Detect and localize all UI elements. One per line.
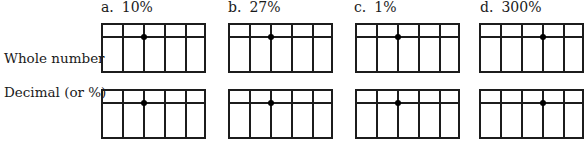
grid-line [397, 91, 399, 137]
column-label-b: b.27% [228, 0, 281, 15]
grid-line [122, 91, 124, 137]
grid-line [500, 91, 502, 137]
decimal-point-dot [395, 34, 401, 40]
grid-line [563, 91, 565, 137]
column-value: 300% [501, 0, 541, 15]
place-value-grid-decimal-d [479, 89, 584, 139]
grid-line [291, 25, 293, 71]
decimal-point-dot [268, 34, 274, 40]
column-letter: a. [101, 0, 114, 15]
grid-line [122, 25, 124, 71]
decimal-point-dot [268, 100, 274, 106]
decimal-point-dot [540, 34, 546, 40]
place-value-grid-whole-a [101, 23, 206, 73]
column-value: 27% [249, 0, 280, 15]
grid-line [291, 91, 293, 137]
decimal-point-dot [540, 100, 546, 106]
grid-line [563, 25, 565, 71]
grid-line [521, 25, 523, 71]
decimal-point-dot [141, 100, 147, 106]
grid-divider [481, 102, 582, 104]
column-label-c: c.1% [354, 0, 397, 15]
place-value-grid-decimal-c [355, 89, 460, 139]
column-letter: c. [354, 0, 366, 15]
grid-line [270, 25, 272, 71]
grid-divider [481, 36, 582, 38]
place-value-grid-whole-d [479, 23, 584, 73]
grid-line [249, 91, 251, 137]
grid-line [270, 91, 272, 137]
place-value-grid-decimal-a [101, 89, 206, 139]
grid-divider [103, 102, 204, 104]
grid-line [143, 91, 145, 137]
place-value-grid-whole-c [355, 23, 460, 73]
grid-line [185, 91, 187, 137]
grid-divider [230, 36, 331, 38]
decimal-point-dot [395, 100, 401, 106]
grid-divider [357, 36, 458, 38]
grid-line [542, 25, 544, 71]
column-letter: b. [228, 0, 241, 15]
grid-line [249, 25, 251, 71]
grid-line [376, 91, 378, 137]
grid-divider [103, 36, 204, 38]
grid-line [521, 91, 523, 137]
grid-line [439, 91, 441, 137]
grid-line [418, 91, 420, 137]
row-label-whole-number: Whole number [4, 50, 105, 66]
column-letter: d. [480, 0, 493, 15]
place-value-grid-decimal-b [228, 89, 333, 139]
grid-line [185, 25, 187, 71]
grid-line [397, 25, 399, 71]
grid-line [164, 91, 166, 137]
grid-divider [230, 102, 331, 104]
grid-divider [357, 102, 458, 104]
grid-line [312, 91, 314, 137]
grid-line [418, 25, 420, 71]
grid-line [376, 25, 378, 71]
grid-line [500, 25, 502, 71]
grid-line [312, 25, 314, 71]
grid-line [542, 91, 544, 137]
column-label-d: d.300% [480, 0, 541, 15]
grid-line [439, 25, 441, 71]
column-label-a: a.10% [101, 0, 153, 15]
row-label-decimal: Decimal (or %) [4, 84, 106, 100]
column-value: 10% [122, 0, 153, 15]
decimal-point-dot [141, 34, 147, 40]
place-value-grid-whole-b [228, 23, 333, 73]
grid-line [164, 25, 166, 71]
grid-line [143, 25, 145, 71]
column-value: 1% [374, 0, 396, 15]
